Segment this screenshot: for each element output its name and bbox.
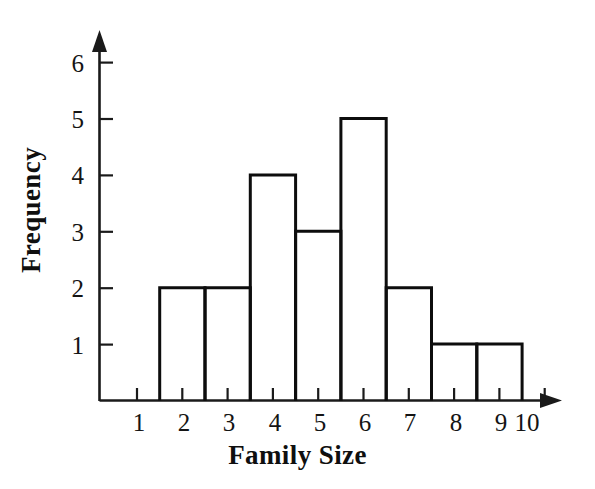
y-tick-label-2: 2 bbox=[56, 276, 84, 301]
bar-family-size-5 bbox=[296, 231, 341, 400]
x-tick-label-3: 3 bbox=[223, 410, 236, 435]
y-tick-label-1: 1 bbox=[56, 332, 84, 357]
x-tick-label-1: 1 bbox=[133, 410, 146, 435]
y-axis-arrow-icon bbox=[92, 30, 107, 52]
x-tick-label-8: 8 bbox=[450, 410, 463, 435]
x-tick-label-9: 9 bbox=[495, 410, 508, 435]
y-tick-label-3: 3 bbox=[56, 219, 84, 244]
y-axis-ticks bbox=[100, 63, 114, 345]
x-axis-arrow-icon bbox=[540, 393, 562, 408]
y-axis-title: Frequency bbox=[16, 60, 47, 360]
bar-family-size-7 bbox=[386, 288, 431, 401]
bar-family-size-3 bbox=[205, 288, 250, 401]
x-tick-label-4: 4 bbox=[269, 410, 282, 435]
x-tick-label-5: 5 bbox=[314, 410, 327, 435]
y-tick-label-5: 5 bbox=[56, 107, 84, 132]
x-tick-label-7: 7 bbox=[404, 410, 417, 435]
bar-family-size-2 bbox=[160, 288, 205, 401]
x-tick-label-2: 2 bbox=[178, 410, 191, 435]
histogram-figure: 1 2 3 4 5 6 1 2 3 4 5 6 7 8 9 10 Family … bbox=[0, 0, 595, 489]
bar-family-size-6 bbox=[341, 119, 386, 401]
y-tick-label-6: 6 bbox=[56, 50, 84, 75]
y-tick-label-4: 4 bbox=[56, 163, 84, 188]
x-tick-label-6: 6 bbox=[359, 410, 372, 435]
histogram-bars bbox=[160, 119, 522, 401]
x-axis-title: Family Size bbox=[0, 440, 595, 471]
x-tick-label-10: 10 bbox=[515, 410, 540, 435]
bar-family-size-4 bbox=[250, 175, 295, 401]
